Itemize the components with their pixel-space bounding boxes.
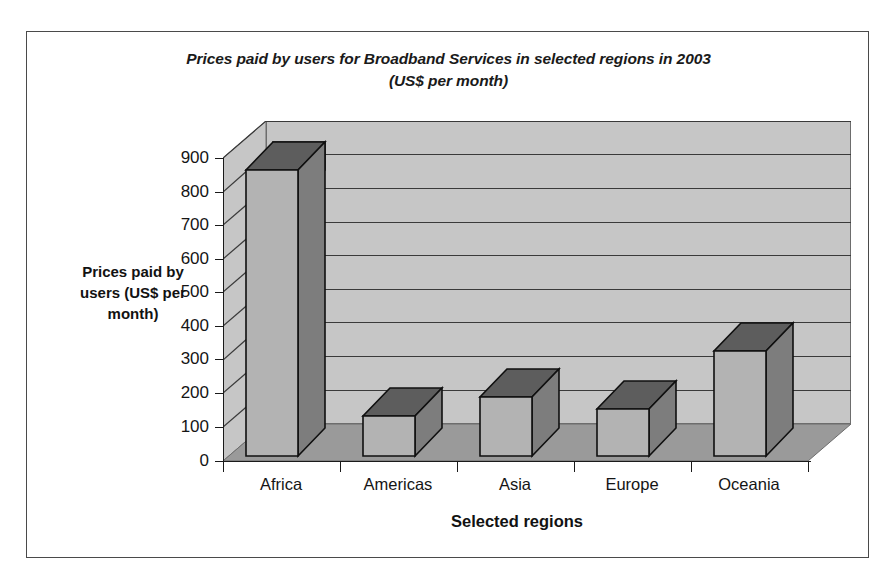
bar-africa[interactable] xyxy=(246,142,298,456)
x-tick-0 xyxy=(223,461,224,472)
y-tick-200 xyxy=(215,393,224,394)
y-tick-300 xyxy=(215,359,224,360)
y-axis-line xyxy=(223,158,224,461)
y-tick-label-900: 900 xyxy=(153,149,209,166)
y-tick-900 xyxy=(215,158,224,159)
y-axis-title: Prices paid by users (US$ per month) xyxy=(53,261,213,324)
y-tick-100 xyxy=(215,427,224,428)
y-tick-700 xyxy=(215,225,224,226)
gridline-900 xyxy=(266,121,851,122)
x-tick-5 xyxy=(808,461,809,472)
y-axis-title-line-1: Prices paid by xyxy=(53,261,213,282)
y-tick-label-200: 200 xyxy=(153,384,209,401)
x-tick-label-europe: Europe xyxy=(567,475,697,494)
y-tick-600 xyxy=(215,259,224,260)
x-tick-label-americas: Americas xyxy=(333,475,463,494)
x-tick-2 xyxy=(457,461,458,472)
y-tick-label-0: 0 xyxy=(153,452,209,469)
bar-americas[interactable] xyxy=(363,388,415,456)
bar-africa-shape xyxy=(246,142,326,456)
gridline-400 xyxy=(266,289,851,290)
gridline-700 xyxy=(266,188,851,189)
bar-oceania[interactable] xyxy=(714,323,766,456)
bar-americas-shape xyxy=(363,388,443,456)
y-tick-label-100: 100 xyxy=(153,418,209,435)
x-tick-4 xyxy=(691,461,692,472)
gridline-500 xyxy=(266,255,851,256)
y-tick-800 xyxy=(215,192,224,193)
x-axis-line xyxy=(223,461,811,462)
x-tick-label-africa: Africa xyxy=(216,475,346,494)
x-tick-label-asia: Asia xyxy=(450,475,580,494)
bar-asia-shape xyxy=(480,369,560,456)
gridline-600 xyxy=(266,222,851,223)
y-axis-title-line-2: users (US$ per xyxy=(53,282,213,303)
bar-oceania-shape xyxy=(714,323,794,456)
y-axis-title-line-3: month) xyxy=(53,303,213,324)
bar-europe[interactable] xyxy=(597,381,649,456)
x-tick-label-oceania: Oceania xyxy=(684,475,814,494)
x-tick-1 xyxy=(340,461,341,472)
gridline-800 xyxy=(266,154,851,155)
chart-frame: Prices paid by users for Broadband Servi… xyxy=(26,31,869,558)
y-tick-400 xyxy=(215,326,224,327)
y-tick-label-300: 300 xyxy=(153,350,209,367)
x-tick-3 xyxy=(574,461,575,472)
y-tick-500 xyxy=(215,292,224,293)
y-tick-label-700: 700 xyxy=(153,216,209,233)
bar-europe-shape xyxy=(597,381,677,456)
x-axis-title: Selected regions xyxy=(223,512,811,531)
y-tick-label-800: 800 xyxy=(153,183,209,200)
bar-asia[interactable] xyxy=(480,369,532,456)
